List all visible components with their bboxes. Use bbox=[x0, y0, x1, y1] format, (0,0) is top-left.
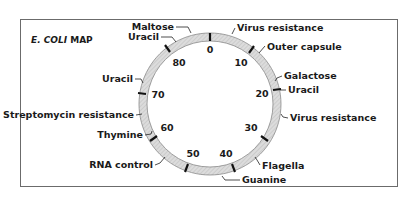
gene-label-uracil-2: Uracil bbox=[102, 73, 133, 84]
gene-label-rna-control: RNA control bbox=[89, 159, 153, 170]
gene-label-guanine: Guanine bbox=[242, 174, 286, 185]
gene-label-thymine: Thymine bbox=[97, 129, 143, 140]
tick-label-0: 0 bbox=[207, 44, 214, 55]
gene-label-virus-resistance-2: Virus resistance bbox=[290, 112, 376, 123]
tick-label-10: 10 bbox=[234, 57, 248, 68]
gene-label-uracil-3: Uracil bbox=[288, 84, 319, 95]
ecoli-map-diagram: E. COLI MAP 0 10 20 30 40 50 60 70 80 bbox=[0, 0, 415, 197]
tick-label-80: 80 bbox=[172, 57, 186, 68]
tick-label-50: 50 bbox=[186, 148, 200, 159]
gene-labels: Maltose Uracil Uracil Streptomycin resis… bbox=[3, 21, 376, 185]
tick-label-30: 30 bbox=[244, 122, 258, 133]
gene-label-flagella: Flagella bbox=[262, 160, 304, 171]
tick-label-60: 60 bbox=[160, 122, 174, 133]
map-title: E. COLI MAP bbox=[31, 35, 93, 45]
gene-label-galactose: Galactose bbox=[284, 70, 337, 81]
tick-label-20: 20 bbox=[255, 88, 269, 99]
tick-labels: 0 10 20 30 40 50 60 70 80 bbox=[151, 44, 269, 159]
gene-label-uracil-1: Uracil bbox=[128, 31, 159, 42]
gene-label-streptomycin-resistance: Streptomycin resistance bbox=[3, 109, 134, 120]
tick-label-40: 40 bbox=[219, 148, 233, 159]
tick-label-70: 70 bbox=[151, 89, 165, 100]
gene-label-virus-resistance-1: Virus resistance bbox=[237, 22, 323, 33]
gene-label-outer-capsule: Outer capsule bbox=[267, 41, 342, 52]
